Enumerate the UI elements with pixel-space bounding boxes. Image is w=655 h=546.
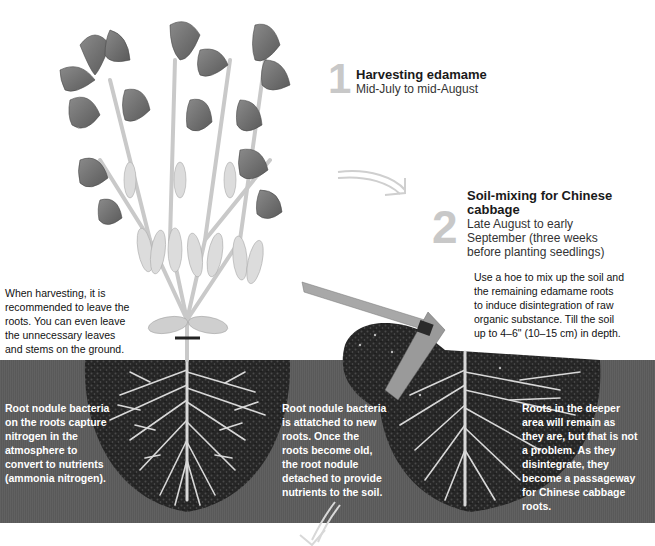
nodule-attach-note: Root nodule bacteria is attatched to new…	[282, 401, 386, 499]
step-2-title-line1: Soil-mixing for Chinese	[467, 189, 612, 203]
step-1-number: 1	[328, 58, 351, 100]
deep-roots-line: Roots in the deeper	[522, 401, 638, 415]
nodule-attach-line: Root nodule bacteria	[282, 401, 386, 415]
step-1-title: Harvesting edamame	[356, 68, 487, 82]
nodule-attach-line: the root nodule	[282, 457, 386, 471]
nodule-capture-line: atmosphere to	[5, 443, 109, 457]
step-2-subtitle-line2: September (three weeks	[467, 231, 598, 245]
hoe-tip-line: up to 4–6" (10–15 cm) in depth.	[474, 326, 624, 340]
nodule-capture-line: convert to nutrients	[5, 457, 109, 471]
step-2-title-line2: cabbage	[467, 203, 520, 217]
harvest-tip-line: and stems on the ground.	[5, 342, 129, 356]
harvest-tip-line: the unnecessary leaves	[5, 328, 129, 342]
harvest-tip-line: recommended to leave the	[5, 300, 129, 314]
step-2-subtitle-line3: before planting seedlings)	[467, 245, 604, 259]
deep-roots-line: they are, but that is not	[522, 429, 638, 443]
arrow-right-down-icon	[338, 171, 405, 195]
harvest-tip-line: When harvesting, it is	[5, 286, 129, 300]
hoe-tip-line: organic substance. Till the soil	[474, 312, 624, 326]
left-soil-mound	[85, 360, 290, 512]
deep-roots-line: area will remain as	[522, 415, 638, 429]
nodule-capture-line: (ammonia nitrogen).	[5, 471, 109, 485]
deep-roots-line: become a passageway	[522, 471, 638, 485]
nodule-attach-line: nutrients to the soil.	[282, 485, 386, 499]
step-2-number: 2	[432, 204, 458, 250]
nodule-capture-note: Root nodule bacteria on the roots captur…	[5, 401, 109, 485]
hoe-tip-line: the remaining edamame roots	[474, 284, 624, 298]
hoe-tip: Use a hoe to mix up the soil and the rem…	[474, 270, 624, 340]
step-2-subtitle-line1: Late August to early	[467, 217, 573, 231]
harvest-tip-line: roots. You can even leave	[5, 314, 129, 328]
deep-roots-line: disintegrate, they	[522, 457, 638, 471]
harvest-tip: When harvesting, it is recommended to le…	[5, 286, 129, 356]
deep-roots-line: a problem. As they	[522, 443, 638, 457]
nodule-capture-line: Root nodule bacteria	[5, 401, 109, 415]
nodule-capture-line: nitrogen in the	[5, 429, 109, 443]
nodule-attach-line: roots become old,	[282, 443, 386, 457]
deep-roots-note: Roots in the deeper area will remain as …	[522, 401, 638, 513]
deep-roots-line: roots.	[522, 499, 638, 513]
nodule-attach-line: detached to provide	[282, 471, 386, 485]
step-1-subtitle: Mid-July to mid-August	[356, 82, 478, 96]
nodule-attach-line: roots. Once the	[282, 429, 386, 443]
arrow-down-icon	[300, 502, 340, 545]
hoe-tip-line: Use a hoe to mix up the soil and	[474, 270, 624, 284]
nodule-capture-line: on the roots capture	[5, 415, 109, 429]
hoe-tip-line: to induce disintegration of raw	[474, 298, 624, 312]
deep-roots-line: for Chinese cabbage	[522, 485, 638, 499]
nodule-attach-line: is attatched to new	[282, 415, 386, 429]
